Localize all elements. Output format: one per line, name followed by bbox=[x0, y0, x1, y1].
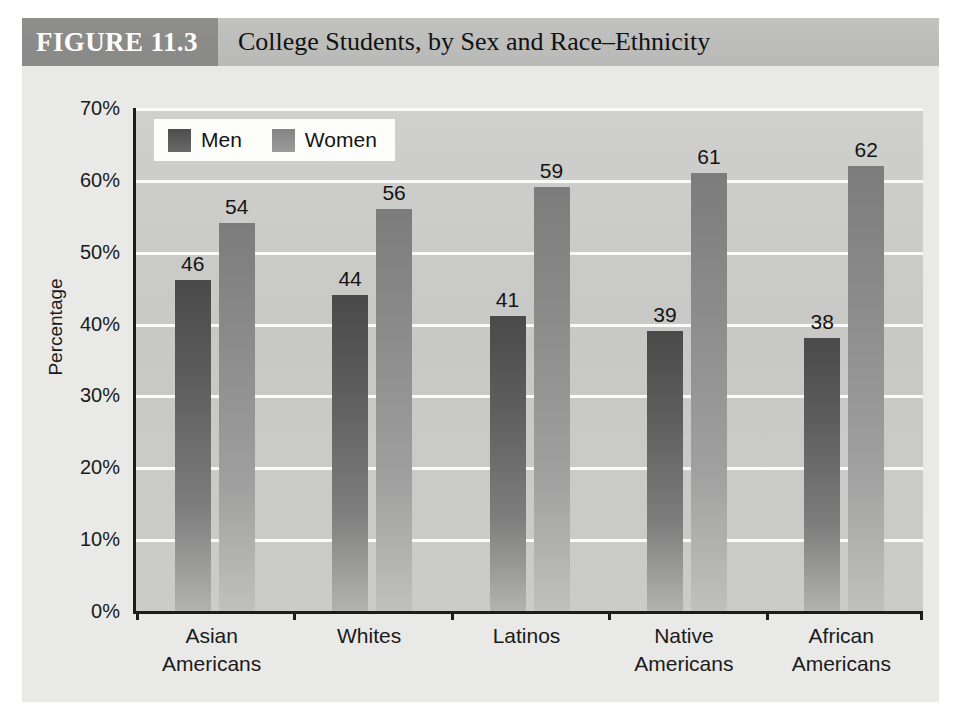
bar-value-label: 46 bbox=[181, 252, 204, 276]
legend-item-women: Women bbox=[272, 128, 377, 152]
legend-item-men: Men bbox=[168, 128, 242, 152]
bar-men-1: 44 bbox=[332, 295, 368, 611]
gridline bbox=[136, 180, 923, 183]
x-axis-category-label-line: African bbox=[746, 622, 936, 650]
x-axis-tick bbox=[608, 611, 611, 620]
plot-area: 46544456415939613862 Men Women bbox=[133, 108, 923, 614]
bar-women-3: 61 bbox=[691, 173, 727, 611]
y-axis-tick-labels: 70%60%50%40%30%20%10%0% bbox=[58, 66, 120, 702]
x-axis-category-label-line: Americans bbox=[117, 650, 307, 678]
bar-value-label: 59 bbox=[540, 159, 563, 183]
y-axis-tick-label: 0% bbox=[58, 600, 120, 623]
bar-value-label: 38 bbox=[811, 310, 834, 334]
bar-men-0: 46 bbox=[175, 280, 211, 611]
figure-root: FIGURE 11.3 College Students, by Sex and… bbox=[0, 0, 961, 723]
bar-value-label: 54 bbox=[225, 195, 248, 219]
y-axis-tick-label: 70% bbox=[58, 97, 120, 120]
y-axis-tick-label: 60% bbox=[58, 168, 120, 191]
bar-men-4: 38 bbox=[804, 338, 840, 611]
figure-number-label: FIGURE 11.3 bbox=[36, 27, 198, 58]
legend-swatch-men-icon bbox=[168, 129, 191, 152]
x-axis-tick bbox=[451, 611, 454, 620]
y-axis-tick-label: 40% bbox=[58, 312, 120, 335]
bar-value-label: 61 bbox=[697, 145, 720, 169]
bar-value-label: 41 bbox=[496, 288, 519, 312]
figure-title-band: FIGURE 11.3 College Students, by Sex and… bbox=[22, 18, 939, 66]
bar-women-2: 59 bbox=[534, 187, 570, 611]
x-axis-tick bbox=[293, 611, 296, 620]
x-axis-category-label: AfricanAmericans bbox=[746, 622, 936, 677]
plot-inner: 46544456415939613862 bbox=[136, 108, 923, 611]
bar-men-2: 41 bbox=[490, 316, 526, 611]
bar-women-4: 62 bbox=[848, 166, 884, 612]
gridline bbox=[136, 108, 923, 111]
x-axis-category-label-line: Americans bbox=[746, 650, 936, 678]
figure-title-text: College Students, by Sex and Race–Ethnic… bbox=[238, 27, 710, 57]
legend-swatch-women-icon bbox=[272, 129, 295, 152]
y-axis-tick-label: 10% bbox=[58, 528, 120, 551]
bar-value-label: 39 bbox=[653, 303, 676, 327]
bar-women-0: 54 bbox=[219, 223, 255, 611]
x-axis-tick bbox=[920, 611, 923, 620]
y-axis-tick-label: 50% bbox=[58, 240, 120, 263]
x-axis-category-labels: AsianAmericansWhitesLatinosNativeAmerica… bbox=[133, 622, 923, 698]
y-axis-tick-label: 20% bbox=[58, 456, 120, 479]
chart-legend: Men Women bbox=[154, 119, 395, 161]
x-axis-tick bbox=[136, 611, 139, 620]
bar-value-label: 62 bbox=[855, 138, 878, 162]
bar-value-label: 44 bbox=[338, 267, 361, 291]
bar-women-1: 56 bbox=[376, 209, 412, 611]
bar-men-3: 39 bbox=[647, 331, 683, 611]
chart-area: Percentage 70%60%50%40%30%20%10%0% 46544… bbox=[22, 66, 939, 702]
figure-number-band: FIGURE 11.3 bbox=[22, 18, 218, 66]
x-axis-tick bbox=[766, 611, 769, 620]
bar-value-label: 56 bbox=[382, 181, 405, 205]
y-axis-tick-label: 30% bbox=[58, 384, 120, 407]
figure-title-band-light: College Students, by Sex and Race–Ethnic… bbox=[218, 18, 939, 66]
legend-label-men: Men bbox=[201, 128, 242, 152]
legend-label-women: Women bbox=[305, 128, 377, 152]
